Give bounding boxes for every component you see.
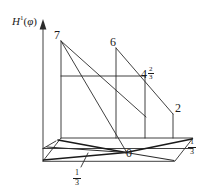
label-step-right-fraction: 2 3	[148, 66, 154, 82]
label-base-front-third: 1 3	[73, 169, 81, 188]
figure-drawing	[0, 0, 201, 191]
axis-label-paren-close: )	[33, 15, 37, 27]
label-end-right: 2	[175, 102, 181, 114]
base-diagonal-origin-to-frontright	[126, 153, 174, 161]
label-origin: 0	[126, 147, 132, 159]
tick-front-third	[81, 153, 88, 167]
label-step-right-denominator: 3	[148, 73, 154, 81]
label-base-front-numerator: 1	[73, 169, 81, 178]
label-step-right-whole: 4	[141, 68, 147, 80]
label-step-right-numerator: 2	[148, 66, 154, 73]
label-base-right-denominator: 3	[188, 147, 196, 157]
label-base-right-numerator: 1	[188, 138, 196, 147]
label-peak-left: 7	[54, 29, 60, 41]
axis-label-base: H	[12, 15, 20, 27]
label-base-right-third: 1 3	[188, 138, 196, 157]
base-diagonal-origin-to-backright	[126, 139, 192, 153]
vertical-axis-label: H1(φ)	[12, 15, 37, 27]
label-base-front-denominator: 3	[73, 178, 81, 188]
label-step-right-mixed: 4 2 3	[141, 66, 154, 82]
slope-from-7-to-origin	[61, 41, 127, 152]
slope-from-7-to-step	[61, 41, 146, 117]
figure-container: H1(φ) 7 6 4 2 3 2 0 1 3 1 3	[0, 0, 201, 191]
label-peak-mid: 6	[110, 36, 116, 48]
vertical-axis-arrow-icon	[40, 19, 47, 30]
